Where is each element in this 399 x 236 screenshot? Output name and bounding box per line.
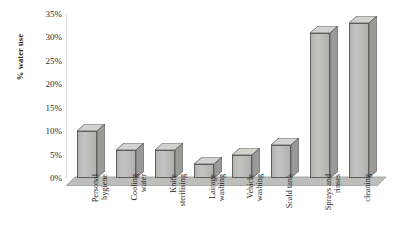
y-axis-tick-label: 0% — [26, 174, 62, 183]
y-axis-tick-label: 10% — [26, 127, 62, 136]
x-axis-category-label: Sprays andrinses — [324, 174, 343, 234]
x-axis-category-label: Lairagewashing — [208, 174, 227, 234]
bar-side-face — [97, 124, 105, 178]
y-axis-tick-label: 35% — [26, 10, 62, 19]
category-label-line: Cooling — [130, 174, 139, 200]
category-label-line: sterilising — [178, 174, 187, 234]
category-label-line: Lairage — [208, 174, 217, 199]
category-label-line: Personal — [91, 174, 100, 202]
bar-front-face — [310, 33, 330, 178]
bar-front-face — [349, 23, 369, 178]
y-axis-tick-label: 5% — [26, 150, 62, 159]
category-label-line: cleaning — [363, 174, 372, 202]
y-axis-tick-label: 20% — [26, 80, 62, 89]
bar-series — [66, 14, 376, 178]
y-axis-tick-labels: 35%30%25%20%15%10%5%0% — [26, 0, 62, 236]
category-label-line: Sprays and — [324, 174, 333, 210]
category-label-line: Knife — [169, 174, 178, 193]
bar — [310, 33, 330, 178]
x-axis-category-label: Knifesterilising — [169, 174, 188, 234]
bar-front-face — [77, 131, 97, 178]
bar — [77, 131, 97, 178]
bar-side-face — [330, 26, 338, 178]
category-label-line: Vehicle — [246, 174, 255, 199]
x-axis-category-label: Personalhygiene — [91, 174, 110, 234]
x-axis-category-labels: PersonalhygieneCoolingwaterKnifesterilis… — [66, 182, 376, 236]
x-axis-category-label: Scald tank — [285, 174, 294, 234]
category-label-line: Scald tank — [285, 174, 294, 208]
bar-side-face — [291, 138, 299, 178]
category-label-line: washing — [256, 174, 265, 234]
bar-side-face — [136, 143, 144, 178]
y-axis-tick-label: 30% — [26, 33, 62, 42]
category-label-line: hygiene — [101, 174, 110, 234]
x-axis-category-label: Vehiclewashing — [246, 174, 265, 234]
bar-side-face — [369, 16, 377, 178]
category-label-line: water — [140, 174, 149, 234]
x-axis-category-label: Coolingwater — [130, 174, 149, 234]
category-label-line: rinses — [333, 174, 342, 234]
y-axis-title: % water use — [15, 12, 25, 102]
y-axis-tick-label: 25% — [26, 56, 62, 65]
y-axis-tick-label: 15% — [26, 103, 62, 112]
x-axis-category-label: cleaning — [363, 174, 372, 234]
bar — [349, 23, 369, 178]
bar-side-face — [175, 143, 183, 178]
category-label-line: washing — [217, 174, 226, 234]
bar-chart: % water use 35%30%25%20%15%10%5%0% Perso… — [0, 0, 399, 236]
